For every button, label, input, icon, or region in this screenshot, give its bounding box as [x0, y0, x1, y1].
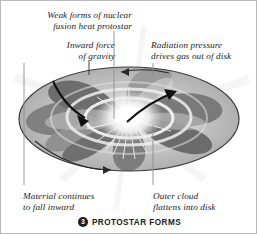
annotation-material-infall: Material continues to fall inward — [23, 191, 133, 214]
annotation-inward-gravity-line2: of gravity — [20, 51, 115, 62]
annotation-weak-fusion: Weak forms of nuclear fusion heat protos… — [20, 10, 132, 33]
figure-caption: 3 PROTOSTAR FORMS — [1, 217, 257, 227]
annotation-inward-gravity: Inward force of gravity — [20, 40, 115, 63]
accretion-disk — [19, 66, 239, 172]
annotation-outer-cloud-line2: flattens into disk — [153, 202, 253, 213]
annotation-outer-cloud: Outer cloud flattens into disk — [153, 191, 253, 214]
annotation-inward-gravity-line1: Inward force — [20, 40, 115, 51]
page-title: PROTOSTAR FORMS — [92, 218, 181, 227]
step-number-badge: 3 — [78, 217, 88, 227]
annotation-outer-cloud-line1: Outer cloud — [153, 191, 253, 202]
annotation-radiation-pressure-line1: Radiation pressure — [151, 40, 255, 51]
annotation-radiation-pressure: Radiation pressure drives gas out of dis… — [151, 40, 255, 63]
protostar-figure: Weak forms of nuclear fusion heat protos… — [0, 0, 257, 234]
annotation-material-infall-line2: to fall inward — [23, 202, 133, 213]
annotation-radiation-pressure-line2: drives gas out of disk — [151, 51, 255, 62]
annotation-material-infall-line1: Material continues — [23, 191, 133, 202]
annotation-weak-fusion-line2: fusion heat protostar — [20, 21, 132, 32]
annotation-weak-fusion-line1: Weak forms of nuclear — [20, 10, 132, 21]
